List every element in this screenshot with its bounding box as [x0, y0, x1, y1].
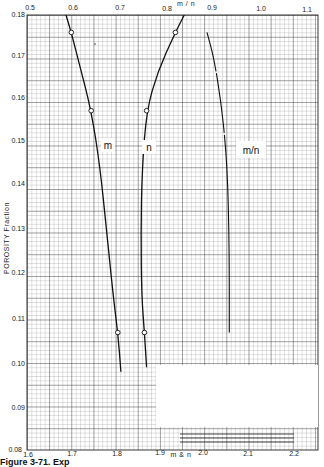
- y-tick: 0.09: [11, 404, 25, 411]
- curve-label-n: n: [142, 140, 156, 154]
- curve-label-m: m: [101, 138, 115, 152]
- y-tick: 0.15: [11, 137, 25, 144]
- data-point-n: [173, 30, 178, 35]
- bottom-x-tick: 1.7: [67, 450, 77, 457]
- stray-mark: [94, 43, 96, 45]
- y-tick: 0.16: [11, 94, 25, 101]
- y-tick: 0.18: [11, 11, 25, 18]
- y-tick: 0.11: [12, 315, 25, 322]
- top-x-axis: 0.5 0.6 0.7 0.8 0.9 1.0 1.1 m / n: [25, 0, 312, 13]
- data-point-m: [116, 330, 121, 335]
- figure-caption: Figure 3-71. Exp: [0, 457, 70, 467]
- bottom-x-tick: 1.8: [112, 450, 122, 457]
- top-x-tick: 0.7: [115, 4, 125, 11]
- top-x-tick: 1.1: [302, 6, 312, 13]
- data-point-m: [69, 30, 74, 35]
- y-tick: 0.12: [11, 269, 25, 276]
- bottom-x-tick: 2.0: [198, 449, 208, 456]
- y-axis-title: POROSITY Fraction: [3, 202, 10, 274]
- y-tick: 0.10: [11, 360, 25, 367]
- y-tick: 0.08: [8, 446, 22, 453]
- y-tick: 0.17: [11, 52, 25, 59]
- curve-label-mn: m/n: [236, 141, 266, 158]
- top-x-tick: 0.6: [68, 4, 78, 11]
- bottom-x-axis-title: m & n: [171, 451, 192, 458]
- bottom-x-tick: 2.2: [289, 450, 299, 457]
- label-n: n: [146, 142, 152, 153]
- top-x-tick: 1.0: [256, 5, 266, 12]
- bottom-x-tick: 2.1: [243, 450, 253, 457]
- data-point-m: [89, 108, 94, 113]
- top-x-tick: 0.5: [25, 4, 35, 11]
- top-x-tick: 0.8: [162, 5, 172, 12]
- y-tick: 0.13: [11, 225, 25, 232]
- y-axis: 0.18 0.17 0.16 0.15 0.14 0.13 0.12 0.11 …: [3, 11, 25, 453]
- data-point-n: [144, 108, 149, 113]
- label-m: m: [104, 140, 112, 151]
- bottom-x-tick: 1.9: [155, 449, 165, 456]
- blank-legend-area: [156, 365, 318, 427]
- label-m-over-n: m/n: [243, 145, 260, 156]
- y-tick: 0.14: [11, 180, 25, 187]
- top-x-axis-title: m / n: [177, 0, 195, 7]
- top-x-tick: 0.9: [207, 4, 217, 11]
- data-point-n: [142, 330, 147, 335]
